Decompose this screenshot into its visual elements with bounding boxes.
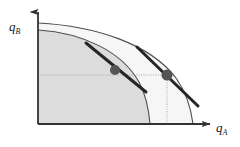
ppf-figure: qB qA xyxy=(0,0,240,147)
y-axis-label-symbol: q xyxy=(9,19,16,34)
x-axis-label-subscript: A xyxy=(223,128,228,137)
equilibrium-point-inner xyxy=(110,65,120,75)
ppf-plot-canvas xyxy=(0,0,240,147)
equilibrium-point-outer xyxy=(162,70,173,81)
inner-feasible-region xyxy=(38,30,150,124)
y-axis-label: qB xyxy=(9,20,20,33)
y-axis-label-subscript: B xyxy=(16,27,21,36)
x-axis-label-symbol: q xyxy=(216,120,223,135)
x-axis-label: qA xyxy=(216,121,227,134)
